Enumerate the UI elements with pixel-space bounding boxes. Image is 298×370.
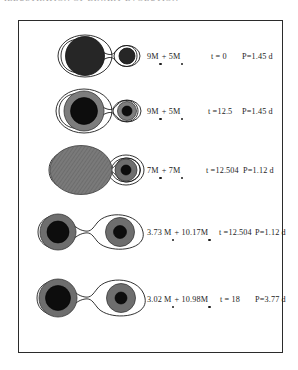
stage-1-mass-label: 9M+ 5M bbox=[147, 52, 180, 61]
stage-5-secondary-core bbox=[115, 292, 127, 304]
stage-4-time-label: t =12.504 bbox=[219, 228, 252, 237]
stage-5-mass-label: 3.02 M+ 10.98M bbox=[147, 295, 208, 304]
stage-2-primary-core bbox=[71, 98, 98, 125]
stage-3-period-label: P=1.12 d bbox=[243, 166, 274, 175]
stage-3-diagram bbox=[23, 140, 153, 200]
stage-1-period-label: P=1.45 d bbox=[242, 52, 273, 61]
stage-row: 7M+ 7M t =12.504 P=1.12 d bbox=[19, 140, 282, 200]
stage-4-labels: 3.73 M+ 10.17M t =12.504 P=1.12 d bbox=[147, 201, 287, 263]
stage-3-mass-label: 7M+ 7M bbox=[147, 166, 180, 175]
stage-3-primary-star-overflow bbox=[50, 146, 112, 195]
stage-5-primary-core bbox=[46, 286, 71, 311]
stage-5-time-label: t = 18 bbox=[220, 295, 240, 304]
stage-5-labels: 3.02 M+ 10.98M t = 18 P=3.77 d bbox=[147, 265, 287, 333]
stage-2-period-label: P=1.45 d bbox=[242, 107, 273, 116]
stage-1-time-label: t = 0 bbox=[211, 52, 227, 61]
stage-3-labels: 7M+ 7M t =12.504 P=1.12 d bbox=[147, 140, 282, 200]
stage-4-period-label: P=1.12 d bbox=[255, 228, 286, 237]
stage-4-mass-label: 3.73 M+ 10.17M bbox=[147, 228, 208, 237]
stage-2-secondary-core bbox=[122, 106, 132, 116]
stage-1-diagram bbox=[23, 29, 153, 83]
stage-2-labels: 9M+ 5M t =12.5 P=1.45 d bbox=[147, 83, 282, 139]
stage-3-secondary-core bbox=[121, 165, 131, 175]
stage-5-diagram bbox=[23, 265, 153, 333]
stage-4-secondary-core bbox=[114, 226, 127, 239]
stage-4-diagram bbox=[23, 201, 153, 263]
stage-1-secondary-star bbox=[119, 48, 135, 64]
stage-row: 3.02 M+ 10.98M t = 18 P=3.77 d bbox=[19, 265, 282, 333]
stage-2-diagram bbox=[23, 83, 153, 139]
stage-1-primary-star bbox=[66, 37, 105, 76]
clipped-caption-header: ILLUSTRATION OF BINARY EVOLUTION bbox=[4, 0, 254, 3]
stage-2-time-label: t =12.5 bbox=[208, 107, 232, 116]
stage-5-period-label: P=3.77 d bbox=[255, 295, 286, 304]
stage-1-labels: 9M+ 5M t = 0 P=1.45 d bbox=[147, 29, 282, 83]
stage-2-mass-label: 9M+ 5M bbox=[147, 107, 180, 116]
stage-row: 9M+ 5M t =12.5 P=1.45 d bbox=[19, 83, 282, 139]
stage-row: 9M+ 5M t = 0 P=1.45 d bbox=[19, 29, 282, 83]
stage-3-time-label: t =12.504 bbox=[206, 166, 239, 175]
stage-row: 3.73 M+ 10.17M t =12.504 P=1.12 d bbox=[19, 201, 282, 263]
stage-4-primary-core bbox=[47, 221, 69, 243]
figure-panel: 9M+ 5M t = 0 P=1.45 d 9M+ 5M t =12.5 P= bbox=[18, 20, 283, 353]
